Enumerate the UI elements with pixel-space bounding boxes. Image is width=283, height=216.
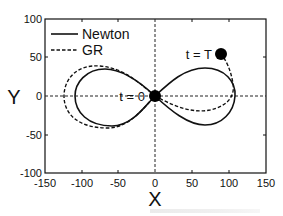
end-marker — [215, 48, 227, 60]
faint-caption-strip — [150, 209, 260, 213]
y-tick-label: -100 — [20, 167, 42, 179]
legend: Newton GR — [51, 26, 129, 58]
y-axis-title: Y — [7, 86, 20, 108]
y-tick-label: -50 — [26, 129, 42, 141]
gr-curve — [155, 54, 233, 111]
x-tick-label: -100 — [71, 177, 93, 189]
start-marker — [149, 90, 161, 102]
x-axis-title: X — [148, 188, 161, 210]
legend-newton-label: Newton — [82, 26, 129, 42]
t0-annotation: t = 0 — [119, 89, 145, 104]
x-tick-label: 150 — [257, 177, 275, 189]
legend-gr-label: GR — [82, 42, 103, 58]
orbit-chart: -150 -100 -50 0 50 100 150 100 50 0 -50 … — [0, 0, 283, 216]
x-tick-label: 50 — [186, 177, 198, 189]
x-tick-label: 100 — [220, 177, 238, 189]
y-tick-label: 50 — [30, 51, 42, 63]
y-tick-label: 100 — [24, 13, 42, 25]
x-tick-label: -50 — [110, 177, 126, 189]
y-tick-label: 0 — [36, 90, 42, 102]
tT-annotation: t = T — [186, 47, 212, 62]
